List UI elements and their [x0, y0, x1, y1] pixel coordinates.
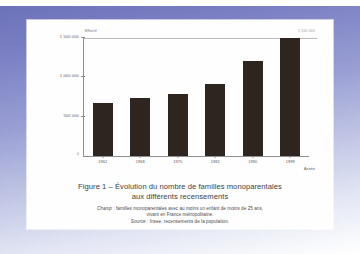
x-axis-title: Année — [304, 167, 315, 171]
bar-1968 — [130, 98, 150, 156]
x-tick-label: 1999 — [286, 159, 295, 164]
note-source-label: Source — [131, 219, 146, 224]
x-tick-label: 1962 — [98, 159, 107, 164]
y-tick-label: 500 000 — [63, 113, 79, 118]
caption-line-1: Figure 1 – Évolution du nombre de famill… — [37, 182, 323, 192]
figure-notes: Champ : familles monoparentales avec au … — [41, 206, 319, 225]
bar-series: 1962 1968 1975 1982 — [84, 38, 309, 156]
bar-slot: 1999 — [274, 38, 307, 156]
x-tick-mark — [290, 156, 291, 158]
bar-1982 — [205, 84, 225, 156]
note-source-text: : Insee, recensements de la population. — [146, 219, 229, 224]
bar-1975 — [168, 94, 188, 156]
x-tick-mark — [102, 156, 103, 158]
bar-slot: 1975 — [161, 38, 194, 156]
bar-slot: 1968 — [124, 38, 157, 156]
y-tick-label: 0 — [77, 152, 79, 156]
x-tick-mark — [177, 156, 178, 158]
x-tick-label: 1968 — [136, 159, 145, 164]
note-source-line: Source : Insee, recensements de la popul… — [41, 219, 319, 225]
x-tick-label: 1990 — [248, 159, 257, 164]
bar-1990 — [243, 61, 263, 156]
bar-1962 — [93, 103, 113, 156]
x-tick-mark — [140, 156, 141, 158]
bar-slot: 1982 — [199, 38, 232, 156]
plot-area: 1 500 000 1 000 000 500 000 0 — [83, 38, 309, 157]
y-tick-label: 1 000 000 — [60, 73, 79, 78]
figure-caption: Figure 1 – Évolution du nombre de famill… — [37, 182, 323, 202]
x-tick-label: 1975 — [173, 159, 182, 164]
note-champ-label: Champ — [97, 206, 112, 211]
scanned-page: Effectif 1 500 000 1 500 000 1 000 000 5… — [0, 0, 360, 254]
top-right-value-label: 1 500 000 — [298, 29, 315, 33]
caption-line-2: aux différents recensements — [37, 192, 323, 202]
bar-slot: 1962 — [86, 38, 119, 156]
bar-1999 — [280, 38, 300, 156]
y-axis-title: Effectif — [85, 29, 97, 33]
bar-chart: Effectif 1 500 000 1 500 000 1 000 000 5… — [43, 28, 317, 180]
x-tick-label: 1982 — [211, 159, 220, 164]
bar-slot: 1990 — [236, 38, 269, 156]
note-champ-text: : familles monoparentales avec au moins … — [112, 206, 263, 211]
x-tick-mark — [252, 156, 253, 158]
y-tick-label: 1 500 000 — [60, 34, 79, 39]
figure-card: Effectif 1 500 000 1 500 000 1 000 000 5… — [27, 20, 333, 229]
x-tick-mark — [215, 156, 216, 158]
